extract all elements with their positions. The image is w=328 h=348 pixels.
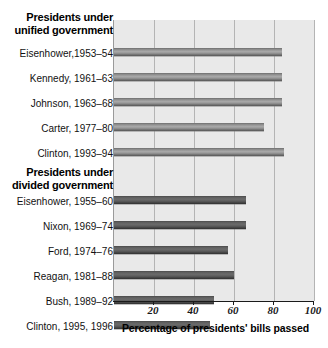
bar-bush-1989-92	[114, 296, 214, 304]
gridline-60	[234, 20, 235, 301]
x-axis-tick-label-80: 80	[258, 304, 288, 317]
bar-ford-1974-76	[114, 246, 228, 254]
bar-clinton-1993-94	[114, 148, 284, 156]
x-axis-title: Percentage of presidents' bills passed	[113, 322, 318, 334]
gridline-20	[154, 20, 155, 301]
group-heading-unified-line2: unified government	[1, 24, 113, 37]
category-label-eisenhower-1953-54: Eisenhower,1953–54	[1, 48, 113, 59]
plot-area	[113, 20, 314, 301]
category-label-johnson-1963-68: Johnson, 1963–68	[1, 98, 113, 109]
x-axis-line	[113, 301, 314, 302]
bar-chart: 20 40 60 80 100 Presidents under unified…	[0, 0, 328, 348]
group-heading-divided: Presidents under divided government	[1, 166, 113, 191]
group-heading-unified: Presidents under unified government	[1, 11, 113, 36]
category-label-column: Presidents under unified government Eise…	[0, 0, 113, 348]
category-label-bush-1989-92: Bush, 1989–92	[1, 296, 113, 307]
group-heading-unified-line1: Presidents under	[1, 11, 113, 24]
bar-kennedy-1961-63	[114, 73, 282, 81]
category-label-clinton-1993-94: Clinton, 1993–94	[1, 148, 113, 159]
bar-carter-1977-80	[114, 123, 264, 131]
gridline-80	[274, 20, 275, 301]
x-axis-tick-label-60: 60	[218, 304, 248, 317]
bar-nixon-1969-74	[114, 221, 246, 229]
category-label-carter-1977-80: Carter, 1977–80	[1, 123, 113, 134]
gridline-100	[314, 20, 315, 301]
category-label-clinton-1995-1996: Clinton, 1995, 1996	[1, 321, 113, 332]
bar-johnson-1963-68	[114, 98, 282, 106]
category-label-reagan-1981-88: Reagan, 1981–88	[1, 271, 113, 282]
x-axis-tick-label-20: 20	[138, 304, 168, 317]
category-label-ford-1974-76: Ford, 1974–76	[1, 246, 113, 257]
category-label-eisenhower-1955-60: Eisenhower, 1955–60	[1, 196, 113, 207]
gridline-40	[194, 20, 195, 301]
bar-reagan-1981-88	[114, 271, 234, 279]
group-heading-divided-line1: Presidents under	[1, 166, 113, 179]
x-axis-tick-label-40: 40	[178, 304, 208, 317]
bar-eisenhower-1953-54	[114, 48, 282, 56]
category-label-kennedy-1961-63: Kennedy, 1961–63	[1, 73, 113, 84]
group-heading-divided-line2: divided government	[1, 179, 113, 192]
x-axis-tick-label-100: 100	[298, 304, 328, 317]
category-label-nixon-1969-74: Nixon, 1969–74	[1, 221, 113, 232]
bar-eisenhower-1955-60	[114, 196, 246, 204]
